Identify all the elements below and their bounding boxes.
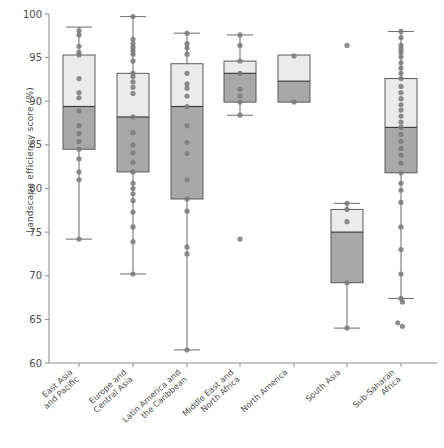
data-point (76, 123, 81, 128)
x-tick-label: Middle East andNorth Africa (180, 367, 242, 425)
y-tick-label: 90 (29, 96, 42, 107)
data-point (76, 44, 81, 49)
data-point (291, 53, 296, 58)
x-tick-label: South Asia (303, 367, 342, 404)
data-point (76, 76, 81, 81)
data-point (130, 209, 135, 214)
x-tick-label: North America (239, 367, 290, 414)
data-point (184, 244, 189, 249)
data-point (344, 326, 349, 331)
data-point (398, 76, 403, 81)
data-point (130, 52, 135, 57)
data-point (184, 196, 189, 201)
box-plot-group (63, 27, 95, 242)
data-point (184, 151, 189, 156)
data-point (184, 347, 189, 352)
data-point (184, 209, 189, 214)
outlier-point (400, 299, 405, 304)
box-plot-group (385, 29, 417, 329)
data-point (237, 86, 242, 91)
x-tick-label-line: Latin America and (120, 367, 182, 424)
data-point (398, 146, 403, 151)
data-point (398, 96, 403, 101)
data-point (130, 130, 135, 135)
data-point (76, 108, 81, 113)
outlier-point (395, 320, 400, 325)
data-point (76, 147, 81, 152)
data-point (344, 219, 349, 224)
data-point (237, 32, 242, 37)
outlier-point (237, 237, 242, 242)
plot-canvas: 6065707580859095100East Asiaand PacificE… (0, 0, 444, 448)
data-point (237, 43, 242, 48)
box-plot-group (278, 53, 310, 104)
data-point (76, 95, 81, 100)
data-point (398, 113, 403, 118)
data-point (130, 150, 135, 155)
data-point (398, 161, 403, 166)
data-point (130, 114, 135, 119)
data-point (344, 201, 349, 206)
box-upper-quartile-fill (278, 55, 310, 81)
y-tick-label: 75 (29, 227, 42, 238)
data-point (184, 104, 189, 109)
data-point (76, 52, 81, 57)
outlier-point (344, 43, 349, 48)
data-point (76, 32, 81, 37)
data-point (130, 79, 135, 84)
y-tick-label: 80 (29, 183, 42, 194)
data-point (398, 35, 403, 40)
y-tick-label: 95 (29, 52, 42, 63)
x-tick-label-line: North America (239, 367, 290, 414)
data-point (184, 140, 189, 145)
data-point (130, 181, 135, 186)
data-point (398, 54, 403, 59)
data-point (184, 177, 189, 182)
data-point (398, 132, 403, 137)
data-point (184, 52, 189, 57)
data-point (398, 71, 403, 76)
x-tick-label: Latin America andthe Caribbean (120, 367, 188, 431)
data-point (237, 113, 242, 118)
data-point (237, 71, 242, 76)
data-point (398, 271, 403, 276)
data-point (398, 107, 403, 112)
outlier-point (400, 324, 405, 329)
data-point (344, 280, 349, 285)
data-point (237, 59, 242, 64)
data-point (130, 169, 135, 174)
box-plot-figure: Landscape efficiency score (%) 606570758… (0, 0, 444, 448)
data-point (398, 84, 403, 89)
data-point (184, 123, 189, 128)
box-plot-group (171, 31, 203, 353)
box-lower-quartile-fill (278, 81, 310, 102)
data-point (184, 251, 189, 256)
data-point (130, 59, 135, 64)
x-tick-label: Sub-SaharanAfrica (351, 367, 403, 417)
data-point (130, 186, 135, 191)
data-point (130, 160, 135, 165)
data-point (76, 90, 81, 95)
data-point (398, 29, 403, 34)
data-point (76, 131, 81, 136)
data-point (398, 65, 403, 70)
data-point (398, 90, 403, 95)
data-point (398, 188, 403, 193)
data-point (237, 100, 242, 105)
box-lower-quartile-fill (331, 232, 363, 283)
data-point (130, 239, 135, 244)
data-point (76, 156, 81, 161)
box-plot-group (117, 14, 149, 277)
data-point (130, 74, 135, 79)
data-point (130, 142, 135, 147)
data-point (398, 102, 403, 107)
data-point (184, 45, 189, 50)
data-point (291, 100, 296, 105)
y-tick-label: 85 (29, 139, 42, 150)
data-point (398, 170, 403, 175)
y-tick-label: 100 (23, 9, 42, 20)
data-point (130, 224, 135, 229)
data-point (398, 125, 403, 130)
data-point (184, 71, 189, 76)
data-point (130, 14, 135, 19)
